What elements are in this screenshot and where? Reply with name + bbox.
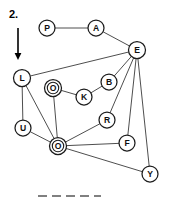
node-label-o2: O (55, 141, 62, 151)
node-label-k: K (81, 92, 88, 102)
graph-node-l[interactable]: L (14, 70, 31, 87)
node-label-r: R (104, 115, 111, 125)
graph-edge-k-o1 (61, 90, 76, 94)
nodes-layer: PAELOBKRUOFY (14, 20, 159, 182)
node-label-o1: O (50, 83, 57, 93)
graph-edge-o1-o2 (54, 96, 58, 137)
node-label-e: E (134, 45, 140, 55)
graph-edge-o2-f (66, 143, 119, 145)
graph-node-e[interactable]: E (129, 42, 146, 59)
figure-canvas: PAELOBKRUOFY 2. (0, 0, 169, 206)
graph-edge-e-l (30, 52, 128, 76)
graph-node-o1[interactable]: O (45, 80, 62, 97)
graph-edge-o2-y (66, 148, 142, 171)
graph-node-b[interactable]: B (101, 74, 117, 90)
graph-edge-u-o2 (30, 132, 50, 142)
node-label-b: B (106, 77, 112, 87)
graph-edge-e-y (138, 58, 149, 166)
node-label-y: Y (147, 169, 153, 179)
node-label-a: A (93, 23, 99, 33)
graph-node-p[interactable]: P (39, 20, 55, 36)
graph-edge-e-b (114, 56, 131, 76)
graph-node-k[interactable]: K (76, 89, 92, 105)
graph-node-f[interactable]: F (119, 135, 135, 151)
graph-node-y[interactable]: Y (142, 166, 158, 182)
graph-node-r[interactable]: R (99, 112, 115, 128)
graph-edge-b-k (91, 86, 102, 93)
graph-edge-a-e (103, 32, 129, 46)
graph-diagram: PAELOBKRUOFY 2. (0, 0, 169, 206)
graph-node-u[interactable]: U (15, 120, 31, 136)
node-label-u: U (20, 123, 26, 133)
graph-edge-o2-r (66, 124, 100, 142)
graph-edge-l-u (22, 87, 23, 121)
step-number-label: 2. (9, 8, 18, 20)
down-arrow-head (15, 53, 22, 60)
graph-edge-e-f (128, 58, 136, 135)
graph-node-o2[interactable]: O (50, 138, 67, 155)
node-label-p: P (44, 23, 50, 33)
step-marker: 2. (9, 8, 21, 60)
graph-node-a[interactable]: A (88, 20, 104, 36)
node-label-f: F (124, 138, 129, 148)
node-label-l: L (19, 73, 24, 83)
